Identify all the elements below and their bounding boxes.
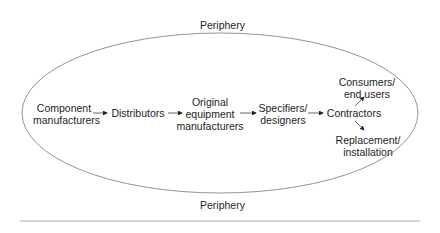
node-replacement-installation: Replacement/ installation	[333, 134, 403, 158]
node-label-line: Contractors	[326, 107, 382, 119]
node-label-line: Component	[33, 102, 95, 114]
node-label-line: designers	[258, 114, 308, 126]
node-consumers-end-users: Consumers/ end users	[337, 76, 397, 100]
node-component-manufacturers: Component manufacturers	[33, 102, 95, 126]
node-label-line: manufacturers	[33, 114, 95, 126]
arrow-contractors-to-replacement	[355, 121, 364, 130]
node-contractors: Contractors	[326, 107, 382, 119]
node-label-line: Original	[175, 96, 245, 108]
node-label-line: Consumers/	[337, 76, 397, 88]
node-label-line: Replacement/	[333, 134, 403, 146]
node-oem: Original equipment manufacturers	[175, 96, 245, 132]
node-label-line: equipment	[175, 108, 245, 120]
node-distributors: Distributors	[110, 107, 166, 119]
node-label-line: installation	[333, 146, 403, 158]
node-label-line: Distributors	[110, 107, 166, 119]
node-specifiers-designers: Specifiers/ designers	[258, 102, 308, 126]
periphery-label-bottom: Periphery	[200, 199, 245, 211]
node-label-line: Specifiers/	[258, 102, 308, 114]
periphery-label-top: Periphery	[200, 19, 245, 31]
node-label-line: end users	[337, 88, 397, 100]
node-label-line: manufacturers	[175, 120, 245, 132]
